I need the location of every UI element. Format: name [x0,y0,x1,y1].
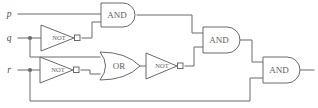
gate-label-not-3: NOT [155,62,168,69]
not-gate-bubble-2 [74,67,80,73]
wire-and2-out-to-and3 [240,40,263,62]
gate-label-not-2: NOT [51,66,64,73]
gate-and-1: AND [101,3,135,27]
wire-not1-out-to-and1 [82,22,101,38]
gate-label-and-2: AND [209,35,229,45]
gate-and-3: AND [263,57,300,83]
wire-not2-out-to-or1 [81,70,100,74]
input-label-r: r [7,65,11,75]
input-label-layer: p q r [6,9,12,75]
gate-label-not-1: NOT [52,34,65,41]
junction-dot-r [28,68,32,72]
junction-dot-q [28,36,32,40]
circuit-svg-canvas: NOT AND NOT OR NOT AND [0,0,318,108]
gate-label-and-3: AND [269,65,289,75]
gate-not-1: NOT [41,25,80,51]
gate-not-3: NOT [146,53,183,79]
gate-not-2: NOT [40,57,79,83]
wire-not3-out-to-and2 [185,47,203,66]
input-label-q: q [7,33,12,43]
gate-or-1: OR [100,52,140,80]
not-gate-bubble-3 [178,63,184,69]
not-gate-bubble-1 [75,35,81,41]
wire-and1-out-to-and2 [137,15,203,33]
logic-circuit-diagram: NOT AND NOT OR NOT AND [0,0,318,108]
gate-label-or-1: OR [113,61,126,71]
input-label-p: p [6,9,12,19]
gate-label-and-1: AND [107,10,127,20]
gate-and-2: AND [203,27,240,53]
